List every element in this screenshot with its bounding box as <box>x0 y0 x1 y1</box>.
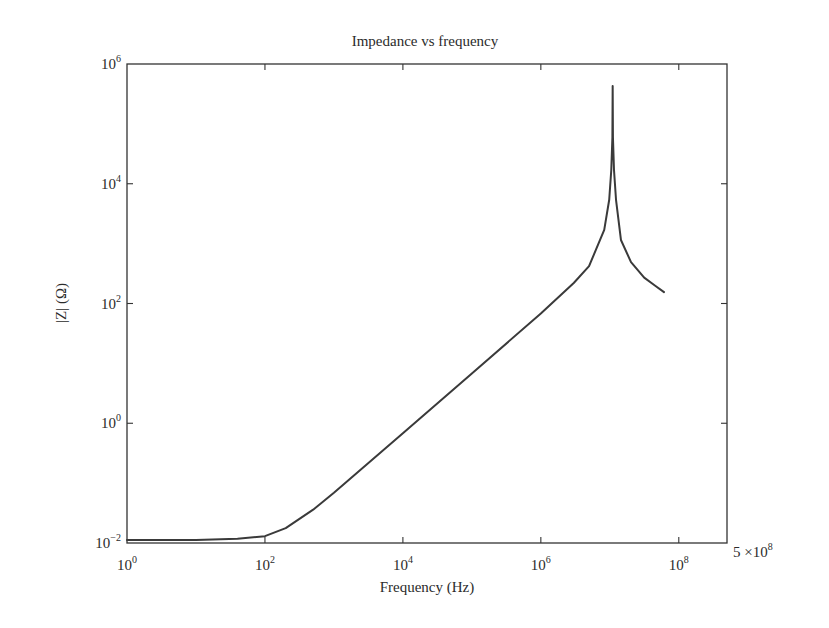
y-axis-ticks: 10−2100102104106 <box>95 53 727 551</box>
x-axis-end-label: 5 ×108 <box>733 541 773 560</box>
x-tick-label: 104 <box>393 554 413 573</box>
y-tick-label: 106 <box>101 53 121 72</box>
plot-frame <box>127 64 727 543</box>
chart-title: Impedance vs frequency <box>352 33 499 49</box>
x-axis-ticks: 1001021041061085 ×108 <box>117 64 773 573</box>
y-tick-label: 100 <box>101 412 121 431</box>
y-tick-label: 102 <box>101 293 121 312</box>
x-tick-label: 100 <box>117 554 137 573</box>
impedance-curve <box>127 86 664 540</box>
x-axis-label: Frequency (Hz) <box>380 579 475 596</box>
x-tick-label: 108 <box>669 554 689 573</box>
x-tick-label: 106 <box>531 554 551 573</box>
x-tick-label: 102 <box>255 554 275 573</box>
y-tick-label: 104 <box>101 173 121 192</box>
y-axis-label: |Z| (Ω) <box>53 283 70 323</box>
chart-canvas: Impedance vs frequency 1001021041061085 … <box>0 0 829 628</box>
data-series <box>127 86 664 540</box>
y-tick-label: 10−2 <box>95 532 121 551</box>
impedance-chart: Impedance vs frequency 1001021041061085 … <box>0 0 829 628</box>
